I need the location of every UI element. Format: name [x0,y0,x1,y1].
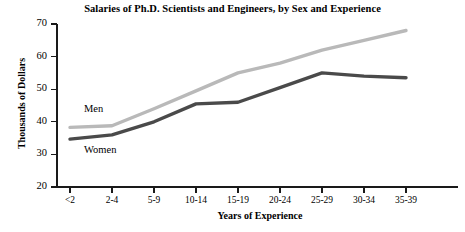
plot-area [0,0,465,232]
salary-line-chart: Salaries of Ph.D. Scientists and Enginee… [0,0,465,232]
series-line-men [70,31,406,128]
axes [51,24,458,193]
series-label-women: Women [84,144,116,155]
series-line-women [70,73,406,139]
data-series [70,31,406,140]
series-label-men: Men [84,103,103,114]
